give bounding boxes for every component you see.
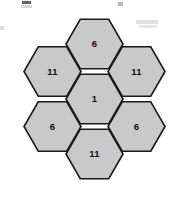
hexagon-label-lower-left: 6: [50, 121, 55, 132]
hexagon-label-bottom: 11: [89, 148, 100, 159]
hexagon-label-upper-left: 11: [47, 66, 58, 77]
hexagon-group: 6111116611: [24, 19, 165, 178]
hexagon-label-center: 1: [92, 93, 98, 104]
hexagon-label-lower-right: 6: [134, 121, 139, 132]
hexagon-diagram: 6111116611: [0, 0, 190, 199]
hexagon-label-upper-right: 11: [131, 66, 142, 77]
hexagon-tiling-svg: 6111116611: [0, 0, 190, 199]
hexagon-label-top: 6: [92, 38, 97, 49]
